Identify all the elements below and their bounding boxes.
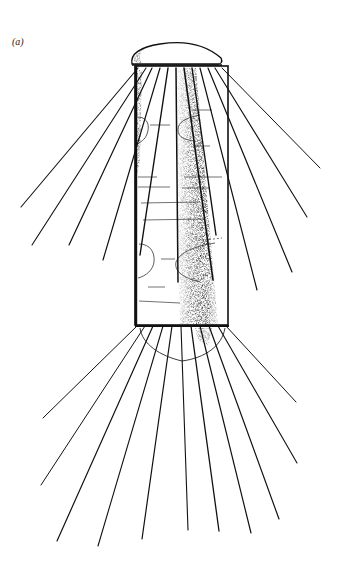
spine xyxy=(142,326,172,539)
spine xyxy=(209,326,279,519)
spine xyxy=(200,326,251,533)
spine xyxy=(181,326,188,530)
spine xyxy=(222,68,320,168)
spine xyxy=(21,68,138,207)
cell-illustration xyxy=(0,0,338,568)
spine xyxy=(215,68,307,217)
spine xyxy=(218,326,297,463)
spine xyxy=(226,326,296,402)
spine xyxy=(32,68,146,245)
lower-spines xyxy=(41,326,297,546)
spine xyxy=(57,326,153,541)
spine xyxy=(43,326,137,418)
spine xyxy=(98,326,163,546)
upper-cap xyxy=(132,43,222,65)
spine xyxy=(191,326,219,531)
